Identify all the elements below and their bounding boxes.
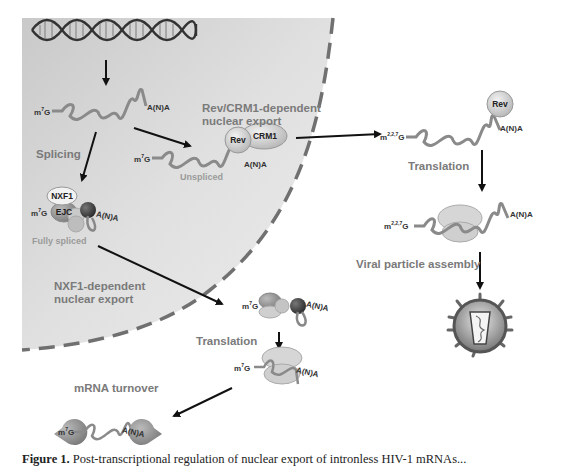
mrna-turnover-label: mRNA turnover [74,382,159,395]
rev-export-label-line2: nuclear export [202,115,281,128]
m7g-cap-label-premrna: m7G [34,106,50,117]
cyto-unspliced-strand [406,115,500,145]
m7g-cap-label-spliced: m7G [31,207,47,218]
figure-caption-text: Post-transcriptional regulation of nucle… [73,452,467,466]
translation-right-label: Translation [408,160,469,173]
nuclear-cbp-dark [80,202,96,218]
tmg-cap-label-cyto: m2,2,7G [380,131,404,142]
polya-label-unspliced: A(N)A [244,160,267,169]
figure-caption-label: Figure 1. [22,452,70,466]
nxf1-export-label-line1: NXF1-dependent [54,280,145,293]
rev-cytoplasm-label: Rev [490,99,510,109]
tmg-cap-label-ribosome: m2,2,7G [384,220,408,231]
m7g-cap-label-translation: m7G [234,362,250,373]
ejc-label: EJC [52,207,76,217]
figure-caption: Figure 1. Post-transcriptional regulatio… [22,452,562,467]
translation-left-label: Translation [196,335,257,348]
m7g-cap-label-decay: m7G [58,426,74,437]
polya-label-ribosome: A(N)A [510,210,533,219]
rev-label: Rev [228,135,248,145]
nxf1-label: NXF1 [50,191,74,201]
polya-label-cyto: A(N)A [500,124,523,133]
unspliced-label: Unspliced [180,172,223,182]
hiv-mrna-export-diagram: Splicing Rev/CRM1-dependent nuclear expo… [0,0,574,468]
diagram-canvas [0,0,574,468]
viral-assembly-label: Viral particle assembly [356,258,480,271]
m7g-cap-label-exported: m7G [242,300,258,311]
rev-export-label-line1: Rev/CRM1-dependent [202,102,321,115]
virion-icon [448,294,512,356]
m7g-cap-label-unspliced: m7G [134,153,150,164]
arrow-turnover [174,388,232,416]
nxf1-export-label-line2: nuclear export [54,293,133,306]
fully-spliced-label: Fully spliced [32,236,87,246]
polya-label-premrna: A(N)A [147,103,170,112]
splicing-label: Splicing [36,148,81,161]
cyto-cap-binding-dark [290,298,306,314]
crm1-label: CRM1 [252,131,278,141]
